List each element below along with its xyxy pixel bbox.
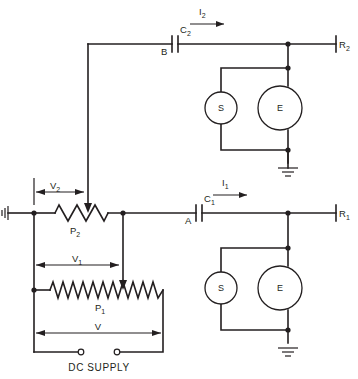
current-arrow-i2 [190, 21, 224, 27]
junction-node [285, 245, 290, 250]
ground-symbol-bottom [278, 348, 298, 356]
current-label-i1: I1 [222, 177, 229, 190]
dimension-label-v-total: V [95, 321, 102, 332]
resistor-p1 [50, 282, 163, 298]
current-arrow-i1 [213, 192, 247, 198]
junction-node [285, 65, 290, 70]
wire-p1-to-supply-right [120, 290, 163, 352]
circuit-diagram-canvas: I2 B C2 R2 S E V2 [0, 0, 358, 379]
ground-symbol-top [278, 150, 298, 176]
node-label-b: B [161, 46, 167, 57]
current-label-i2: I2 [199, 6, 206, 19]
junction-node [285, 327, 290, 332]
meter-s-bottom-label: S [218, 283, 224, 293]
resistor-label-p2: P2 [70, 225, 80, 238]
terminal-label-r2: R2 [339, 39, 350, 52]
capacitor-label-c2: C2 [180, 24, 191, 37]
capacitor-c1 [196, 205, 202, 221]
supply-terminal-left[interactable] [78, 349, 84, 355]
capacitor-c2 [172, 36, 178, 52]
dimension-label-v1: V1 [72, 253, 82, 266]
circuit-diagram-svg: I2 B C2 R2 S E V2 [0, 0, 358, 379]
supply-terminal-right[interactable] [114, 349, 120, 355]
terminal-label-r1: R1 [339, 208, 350, 221]
dimension-label-v2: V2 [50, 180, 60, 193]
ground-symbol-left [2, 206, 34, 220]
meter-s-top-label: S [218, 103, 224, 113]
node-label-a: A [185, 215, 192, 226]
resistor-p2 [55, 205, 108, 221]
supply-label: DC SUPPLY [68, 362, 129, 373]
meter-e-top-label: E [277, 103, 283, 113]
junction-node [31, 210, 36, 215]
resistor-label-p1: P1 [95, 302, 105, 315]
junction-node [285, 210, 290, 215]
junction-node [285, 41, 290, 46]
meter-e-bottom-label: E [277, 283, 283, 293]
